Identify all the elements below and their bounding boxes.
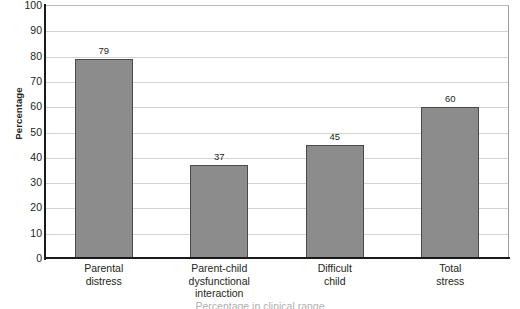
x-axis-category-labels: ParentaldistressParent-childdysfunctiona… bbox=[46, 262, 508, 304]
y-axis-line bbox=[44, 4, 47, 260]
x-category-label-line: Difficult bbox=[277, 262, 393, 275]
bar bbox=[75, 59, 133, 259]
gridline bbox=[46, 57, 508, 58]
y-tick-label: 100 bbox=[0, 0, 42, 10]
y-tick-label: 20 bbox=[0, 202, 42, 213]
y-tick-label: 30 bbox=[0, 177, 42, 188]
x-category-label-line: Parental bbox=[46, 262, 162, 275]
x-category-label-line: interaction bbox=[162, 287, 278, 300]
cut-off-caption: Percentage in clinical range bbox=[0, 300, 520, 309]
x-category-label-line: Parent-child bbox=[162, 262, 278, 275]
bar-value-label: 60 bbox=[445, 94, 456, 104]
y-tick-label: 40 bbox=[0, 152, 42, 163]
y-tick-label: 80 bbox=[0, 50, 42, 61]
gridline bbox=[46, 31, 508, 32]
y-axis-tick-labels: 1009080706050403020100 bbox=[0, 0, 42, 264]
x-category-label-line: distress bbox=[46, 275, 162, 288]
x-category-label-line: stress bbox=[393, 275, 509, 288]
x-category-label: Totalstress bbox=[393, 262, 509, 287]
bar-value-label: 79 bbox=[98, 46, 109, 56]
bar bbox=[421, 107, 479, 259]
x-category-label: Difficultchild bbox=[277, 262, 393, 287]
bar-value-label: 37 bbox=[214, 152, 225, 162]
y-tick-label: 90 bbox=[0, 25, 42, 36]
y-tick-label: 60 bbox=[0, 101, 42, 112]
bar-chart-figure: Percentage 1009080706050403020100 793745… bbox=[0, 0, 520, 309]
y-tick-label: 10 bbox=[0, 227, 42, 238]
x-category-label: Parentaldistress bbox=[46, 262, 162, 287]
y-tick-label: 70 bbox=[0, 76, 42, 87]
y-tick-label: 0 bbox=[0, 253, 42, 264]
x-category-label-line: child bbox=[277, 275, 393, 288]
x-axis-line bbox=[44, 257, 510, 260]
bar-value-label: 45 bbox=[329, 132, 340, 142]
bar bbox=[306, 145, 364, 259]
y-tick-label: 50 bbox=[0, 126, 42, 137]
x-category-label-line: Total bbox=[393, 262, 509, 275]
x-category-label: Parent-childdysfunctionalinteraction bbox=[162, 262, 278, 300]
bar bbox=[190, 165, 248, 259]
x-category-label-line: dysfunctional bbox=[162, 275, 278, 288]
plot-area: 79374560 bbox=[46, 5, 509, 259]
